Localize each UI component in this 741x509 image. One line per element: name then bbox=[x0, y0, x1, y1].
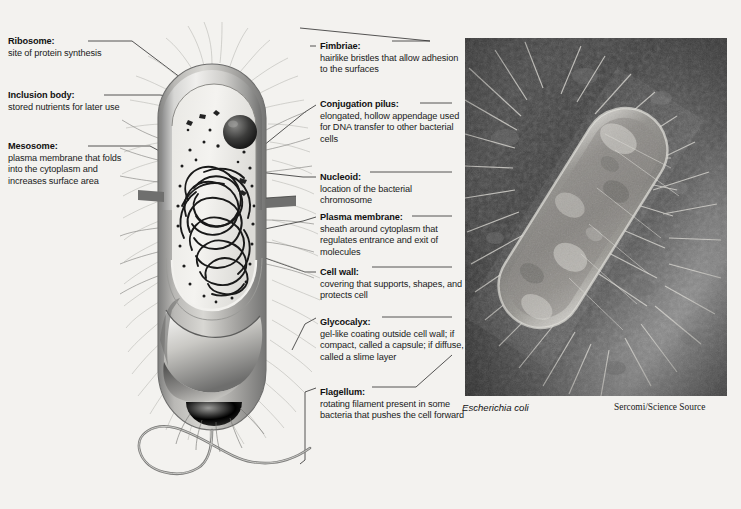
label-glycocalyx: Glycocalyx: gel-like coating outside cel… bbox=[320, 317, 466, 363]
label-body: gel-like coating outside cell wall; if c… bbox=[320, 329, 466, 364]
label-plasma-membrane: Plasma membrane: sheath around cytoplasm… bbox=[320, 212, 466, 258]
label-heading: Plasma membrane: bbox=[320, 212, 466, 224]
label-heading: Conjugation pilus: bbox=[320, 99, 462, 111]
label-heading: Glycocalyx: bbox=[320, 317, 466, 329]
micrograph-image bbox=[465, 38, 727, 396]
label-heading: Inclusion body: bbox=[8, 90, 128, 102]
bacterial-cell-illustration bbox=[120, 10, 350, 500]
label-body: rotating filament present in some bacter… bbox=[320, 399, 466, 422]
label-body: hairlike bristles that allow adhesion to… bbox=[320, 53, 460, 76]
label-body: elongated, hollow appendage used for DNA… bbox=[320, 111, 462, 146]
label-heading: Nucleoid: bbox=[320, 172, 460, 184]
ecoli-micrograph bbox=[465, 38, 727, 396]
label-flagellum: Flagellum: rotating filament present in … bbox=[320, 387, 466, 422]
label-body: location of the bacterial chromosome bbox=[320, 184, 460, 207]
photo-credit: Sercomi/Science Source bbox=[614, 402, 705, 412]
label-nucleoid: Nucleoid: location of the bacterial chro… bbox=[320, 172, 460, 207]
label-body: site of protein synthesis bbox=[8, 48, 138, 60]
label-fimbriae: Fimbriae: hairlike bristles that allow a… bbox=[320, 41, 460, 76]
label-conjugation-pilus: Conjugation pilus: elongated, hollow app… bbox=[320, 99, 462, 145]
label-body: covering that supports, shapes, and prot… bbox=[320, 279, 466, 302]
label-mesosome: Mesosome: plasma membrane that folds int… bbox=[8, 141, 126, 187]
specimen-name: Escherichia coli bbox=[462, 402, 529, 413]
label-heading: Flagellum: bbox=[320, 387, 466, 399]
label-body: stored nutrients for later use bbox=[8, 102, 128, 114]
label-heading: Cell wall: bbox=[320, 267, 466, 279]
label-cell-wall: Cell wall: covering that supports, shape… bbox=[320, 267, 466, 302]
label-heading: Mesosome: bbox=[8, 141, 126, 153]
figure-canvas: Ribosome: site of protein synthesis Incl… bbox=[0, 0, 741, 509]
label-body: sheath around cytoplasm that regulates e… bbox=[320, 224, 466, 259]
label-heading: Fimbriae: bbox=[320, 41, 460, 53]
label-inclusion-body: Inclusion body: stored nutrients for lat… bbox=[8, 90, 128, 113]
label-ribosome: Ribosome: site of protein synthesis bbox=[8, 36, 138, 59]
label-heading: Ribosome: bbox=[8, 36, 138, 48]
label-body: plasma membrane that folds into the cyto… bbox=[8, 153, 126, 188]
